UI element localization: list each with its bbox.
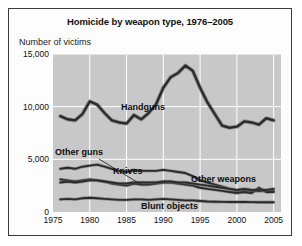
x-tick-label: 1975 (44, 215, 63, 225)
x-tick-label: 1990 (154, 215, 173, 225)
x-tick-label: 2005 (264, 215, 283, 225)
series-label-blunt-objects: Blunt objects (141, 201, 198, 211)
chart-card: Homicide by weapon type, 1976–2005 Numbe… (8, 8, 292, 236)
y-tick-label: 15,000 (23, 49, 49, 59)
x-tick-label: 2000 (227, 215, 246, 225)
series-label-other-weapons: Other weapons (191, 174, 256, 184)
x-tick-label: 1985 (117, 215, 136, 225)
plot-area: HandgunsOther gunsKnivesOther weaponsBlu… (53, 54, 281, 212)
y-tick-label: 5,000 (28, 154, 49, 164)
series-label-other-guns: Other guns (55, 147, 103, 157)
line-chart: HandgunsOther gunsKnivesOther weaponsBlu… (53, 54, 281, 212)
x-tick-label: 1995 (191, 215, 210, 225)
series-label-handguns: Handguns (121, 102, 165, 112)
series-label-knives: Knives (113, 166, 143, 176)
y-axis-title: Number of victims (19, 37, 91, 47)
y-tick-label: 10,000 (23, 102, 49, 112)
page-title: Homicide by weapon type, 1976–2005 (9, 16, 291, 27)
x-tick-label: 1980 (80, 215, 99, 225)
